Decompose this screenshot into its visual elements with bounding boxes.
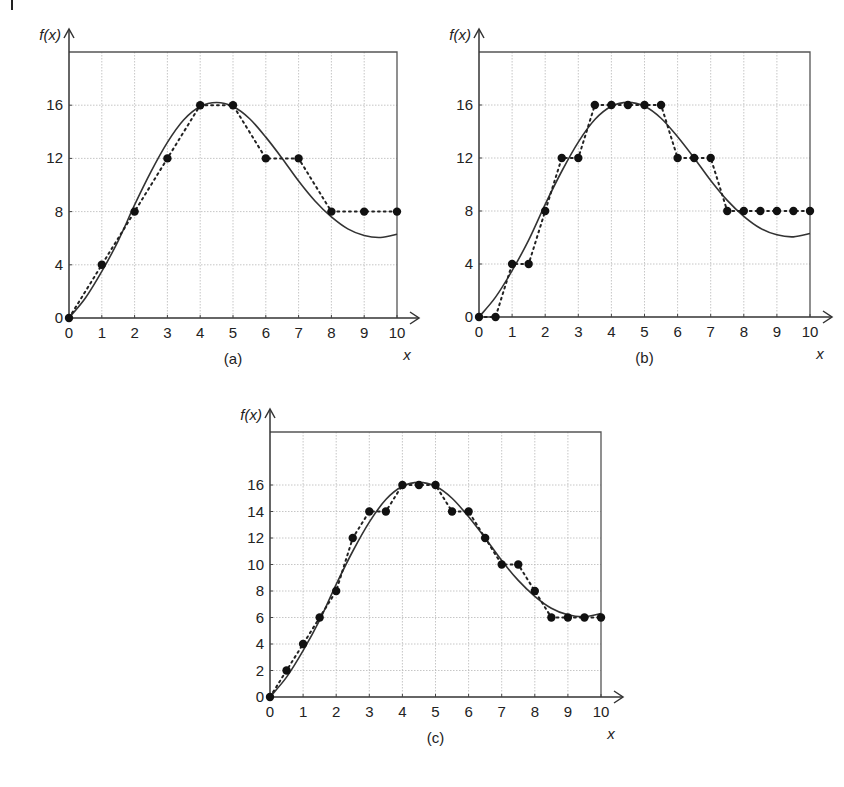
y-tick-label: 4: [465, 255, 473, 272]
chart-caption: (b): [635, 349, 653, 366]
x-tick-label: 6: [262, 324, 270, 341]
x-axis-title: x: [402, 346, 411, 363]
sample-point: [332, 587, 340, 595]
sample-point: [756, 207, 764, 215]
figure: 0123456789100481216f(x)x(a) 012345678910…: [0, 0, 844, 787]
x-tick-label: 3: [574, 323, 582, 340]
sample-point: [262, 154, 270, 162]
sample-point: [393, 207, 401, 215]
sample-point: [773, 207, 781, 215]
sample-point: [806, 207, 814, 215]
y-tick-label: 6: [256, 609, 264, 626]
sample-point: [130, 207, 138, 215]
y-tick-label: 8: [465, 202, 473, 219]
x-tick-label: 2: [130, 324, 138, 341]
sample-point: [448, 507, 456, 515]
sample-point: [740, 207, 748, 215]
y-tick-label: 0: [465, 308, 473, 325]
x-tick-label: 0: [475, 323, 483, 340]
y-tick-label: 8: [256, 582, 264, 599]
sample-point: [541, 207, 549, 215]
x-tick-label: 8: [327, 324, 335, 341]
y-axis-title: f(x): [449, 26, 471, 43]
sample-point: [723, 207, 731, 215]
y-tick-label: 16: [456, 96, 473, 113]
sample-point: [531, 587, 539, 595]
y-axis-title: f(x): [39, 26, 61, 43]
x-tick-label: 4: [196, 324, 204, 341]
sample-point: [299, 640, 307, 648]
x-tick-label: 8: [740, 323, 748, 340]
x-tick-label: 3: [365, 703, 373, 720]
x-tick-label: 9: [773, 323, 781, 340]
sample-point: [481, 534, 489, 542]
x-tick-label: 6: [464, 703, 472, 720]
sample-point: [607, 101, 615, 109]
sample-point: [431, 481, 439, 489]
y-tick-label: 12: [46, 149, 63, 166]
sample-point: [657, 101, 665, 109]
sample-point: [415, 481, 423, 489]
sample-point: [564, 613, 572, 621]
y-axis-title: f(x): [240, 406, 262, 423]
x-tick-label: 7: [707, 323, 715, 340]
x-tick-label: 8: [531, 703, 539, 720]
x-tick-label: 4: [398, 703, 406, 720]
sample-point: [690, 154, 698, 162]
x-tick-label: 5: [431, 703, 439, 720]
x-tick-label: 4: [607, 323, 615, 340]
y-tick-label: 0: [55, 309, 63, 326]
sample-point: [558, 154, 566, 162]
x-tick-label: 2: [332, 703, 340, 720]
sample-point: [475, 313, 483, 321]
y-tick-label: 4: [256, 635, 264, 652]
sample-point: [524, 260, 532, 268]
sample-point: [464, 507, 472, 515]
x-axis-title: x: [815, 345, 824, 362]
sample-point: [591, 101, 599, 109]
sample-point: [398, 481, 406, 489]
sample-point: [196, 101, 204, 109]
x-tick-label: 3: [163, 324, 171, 341]
chart-caption: (a): [224, 350, 242, 367]
y-tick-label: 12: [456, 149, 473, 166]
sample-point: [640, 101, 648, 109]
sample-point: [514, 560, 522, 568]
chart-c: 0123456789100246810121416f(x)x(c): [240, 406, 623, 746]
x-tick-label: 1: [299, 703, 307, 720]
x-tick-label: 0: [65, 324, 73, 341]
y-tick-label: 16: [247, 476, 264, 493]
chart-b: 0123456789100481216f(x)x(b): [449, 26, 832, 366]
x-tick-label: 1: [508, 323, 516, 340]
y-tick-label: 0: [256, 688, 264, 705]
x-tick-label: 10: [389, 324, 406, 341]
sample-point: [282, 666, 290, 674]
x-tick-label: 10: [802, 323, 819, 340]
continuous-curve: [270, 482, 601, 697]
chart-caption: (c): [427, 729, 445, 746]
sample-point: [294, 154, 302, 162]
x-tick-label: 5: [640, 323, 648, 340]
sample-point: [266, 693, 274, 701]
chart-a: 0123456789100481216f(x)x(a): [39, 26, 419, 367]
sample-point: [508, 260, 516, 268]
x-tick-label: 7: [294, 324, 302, 341]
continuous-curve: [69, 103, 397, 318]
sample-point: [498, 560, 506, 568]
x-tick-label: 1: [98, 324, 106, 341]
sample-point: [673, 154, 681, 162]
y-tick-label: 12: [247, 529, 264, 546]
sample-point: [315, 613, 323, 621]
sample-point: [382, 507, 390, 515]
x-tick-label: 5: [229, 324, 237, 341]
y-tick-label: 16: [46, 96, 63, 113]
x-tick-label: 10: [593, 703, 610, 720]
x-tick-label: 9: [564, 703, 572, 720]
sample-point: [574, 154, 582, 162]
x-axis-title: x: [606, 725, 615, 742]
x-tick-label: 7: [498, 703, 506, 720]
sample-point: [547, 613, 555, 621]
sample-point: [229, 101, 237, 109]
sample-point: [65, 314, 73, 322]
sample-point: [624, 101, 632, 109]
